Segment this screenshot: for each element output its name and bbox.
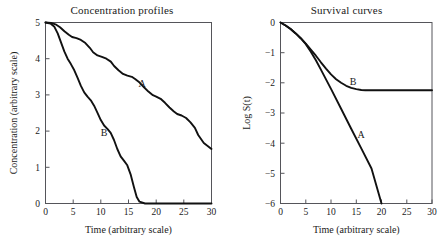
- series-label-b-survival: B: [350, 76, 357, 87]
- series-label-a-survival: A: [357, 129, 365, 140]
- xtick-6: 30: [427, 207, 437, 217]
- ytick-m6: −6: [265, 199, 275, 209]
- xtick-0: 0: [278, 207, 283, 217]
- xtick-1: 5: [303, 207, 308, 217]
- x-axis-label-concentration: Time (arbitrary scale): [85, 224, 172, 236]
- series-label-b-concentration: B: [101, 127, 108, 138]
- curve-b-concentration: [46, 23, 212, 204]
- xtick-4: 20: [377, 207, 387, 217]
- y-axis-ticks: [281, 23, 285, 204]
- x-axis-tick-labels: 0 5 10 15 20 25 30: [278, 207, 437, 217]
- xtick-2: 10: [96, 207, 106, 217]
- curve-a-survival: [281, 23, 382, 204]
- ytick-0: 0: [35, 199, 40, 209]
- ytick-5: 5: [35, 18, 40, 28]
- y-axis-tick-labels: −6 −5 −4 −3 −2 −1 0: [265, 18, 275, 209]
- ytick-m3: −3: [265, 108, 275, 118]
- ytick-m1: −1: [265, 48, 275, 58]
- curve-a-concentration: [46, 23, 212, 150]
- y-axis-label-concentration: Concentration (arbitrary scale): [8, 52, 20, 175]
- series-label-a-concentration: A: [138, 78, 146, 89]
- xtick-3: 15: [352, 207, 362, 217]
- xtick-5: 25: [402, 207, 412, 217]
- y-axis-tick-labels: 0 1 2 3 4 5: [35, 18, 40, 209]
- xtick-1: 5: [71, 207, 76, 217]
- ytick-m5: −5: [265, 169, 275, 179]
- concentration-svg: 0 5 10 15 20 25 30: [0, 0, 222, 250]
- xtick-0: 0: [43, 207, 48, 217]
- x-axis-label-survival: Time (arbitrary scale): [313, 224, 400, 236]
- ytick-m4: −4: [265, 139, 275, 149]
- axes-frame: [46, 23, 212, 204]
- ytick-0: 0: [270, 18, 275, 28]
- ytick-1: 1: [35, 163, 40, 173]
- xtick-5: 25: [179, 207, 189, 217]
- panel-concentration-profiles: Concentration profiles 0 5: [0, 0, 222, 250]
- ytick-2: 2: [35, 126, 40, 136]
- xtick-6: 30: [207, 207, 217, 217]
- y-axis-label-survival: Log S(t): [241, 96, 253, 130]
- panel-survival-curves: Survival curves 0 5 10: [222, 0, 445, 250]
- ytick-4: 4: [35, 54, 40, 64]
- ytick-3: 3: [35, 90, 40, 100]
- ytick-m2: −2: [265, 78, 275, 88]
- xtick-4: 20: [151, 207, 161, 217]
- figure-container: Concentration profiles 0 5: [0, 0, 445, 250]
- y-axis-ticks: [46, 23, 50, 204]
- x-axis-ticks: [281, 200, 433, 204]
- plot-area-survival: 0 5 10 15 20 25 30: [222, 0, 445, 250]
- x-axis-tick-labels: 0 5 10 15 20 25 30: [43, 207, 216, 217]
- survival-svg: 0 5 10 15 20 25 30: [222, 0, 445, 250]
- xtick-2: 10: [326, 207, 336, 217]
- xtick-3: 15: [124, 207, 134, 217]
- plot-area-concentration: 0 5 10 15 20 25 30: [0, 0, 222, 250]
- axes-frame: [281, 23, 433, 204]
